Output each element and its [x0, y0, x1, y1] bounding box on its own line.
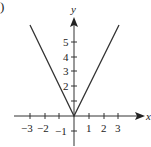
y-axis-label: y [70, 3, 76, 15]
y-tick-label: 5 [63, 36, 69, 48]
x-tick-label: 2 [101, 122, 107, 134]
y-tick-label: 4 [63, 51, 69, 63]
x-tick-label: −3 [21, 122, 33, 134]
y-tick-label: −1 [55, 125, 67, 137]
x-tick-label: 3 [115, 122, 121, 134]
x-tick-label: 1 [86, 122, 92, 134]
y-tick-label: 3 [63, 65, 69, 77]
x-axis-label: x [145, 110, 151, 122]
x-tick-label: −2 [37, 122, 49, 134]
y-tick-label: 2 [63, 80, 69, 92]
chart: −3 −2 1 2 3 −1 2 3 4 5 y x [0, 0, 151, 147]
